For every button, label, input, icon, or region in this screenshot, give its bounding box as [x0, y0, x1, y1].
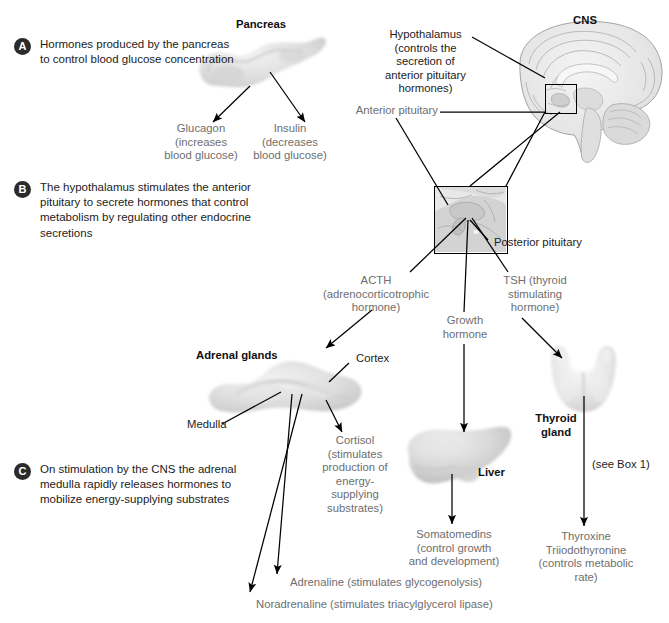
label-liver: Liver — [478, 466, 505, 480]
brain-illustration — [520, 21, 662, 162]
section-badge-a: A — [14, 38, 31, 55]
label-cns: CNS — [555, 14, 615, 28]
label-insulin: Insulin (decreases blood glucose) — [248, 122, 332, 163]
label-cortisol: Cortisol (stimulates production of energ… — [312, 434, 398, 516]
adrenal-glands-illustration — [209, 361, 361, 412]
label-thyroxine: Thyroxine Triiodothyronine (controls met… — [530, 530, 642, 584]
label-growth-hormone: Growth hormone — [432, 314, 498, 341]
label-pancreas: Pancreas — [216, 18, 306, 32]
section-b-description: The hypothalamus stimulates the anterior… — [40, 180, 280, 241]
section-a-description: Hormones produced by the pancreas to con… — [40, 37, 240, 67]
label-adrenaline: Adrenaline (stimulates glycogenolysis) — [290, 576, 482, 590]
label-posterior-pituitary: Posterior pituitary — [494, 236, 582, 250]
section-badge-b: B — [14, 181, 31, 198]
label-tsh: TSH (thyroid stimulating hormone) — [494, 274, 576, 315]
section-badge-c: C — [14, 463, 31, 480]
label-adrenal-glands: Adrenal glands — [196, 349, 278, 363]
label-somatomedins: Somatomedins (control growth and develop… — [396, 528, 512, 569]
label-anterior-pituitary: Anterior pituitary — [330, 104, 438, 118]
label-medulla: Medulla — [187, 418, 227, 432]
label-see-box-1: (see Box 1) — [592, 458, 650, 472]
label-hypothalamus: Hypothalamus (controls the secretion of … — [378, 28, 473, 96]
brain-pituitary-callout-box — [545, 84, 577, 114]
label-noradrenaline: Noradrenaline (stimulates triacylglycero… — [256, 598, 493, 612]
endocrine-system-diagram: A Hormones produced by the pancreas to c… — [0, 0, 669, 623]
section-c-description: On stimulation by the CNS the adrenal me… — [40, 462, 255, 508]
label-glucagon: Glucagon (increases blood glucose) — [160, 122, 242, 163]
label-acth: ACTH (adrenocorticotrophic hormone) — [322, 274, 430, 315]
thyroid-gland-illustration — [551, 346, 616, 412]
label-thyroid-gland: Thyroid gland — [520, 412, 592, 439]
label-cortex: Cortex — [356, 352, 389, 366]
